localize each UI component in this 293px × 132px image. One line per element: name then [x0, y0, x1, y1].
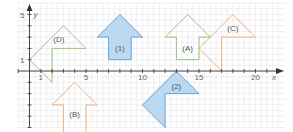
shape-label-b: (B) [69, 110, 80, 119]
y-tick-label: 5 [20, 11, 25, 20]
x-axis-label: x [271, 73, 277, 82]
shape-label-1: (1) [115, 44, 125, 53]
x-tick-label: 15 [195, 73, 204, 82]
shape-label-c: (C) [227, 24, 238, 33]
shape-label-a: (A) [182, 44, 193, 53]
x-tick-label: 10 [138, 73, 147, 82]
shape-label-d: (D) [53, 35, 64, 44]
x-tick-label: 1 [39, 73, 44, 82]
x-tick-label: 5 [84, 73, 89, 82]
y-axis-arrow-icon [27, 4, 33, 11]
x-axis-arrow-icon [276, 68, 284, 74]
coordinate-diagram: (D)(1)(A)(C)(B)(2) x y 1510152015 [0, 0, 293, 132]
y-tick-label: 1 [20, 56, 25, 65]
shape-label-2: (2) [172, 82, 182, 91]
x-tick-label: 20 [251, 73, 260, 82]
